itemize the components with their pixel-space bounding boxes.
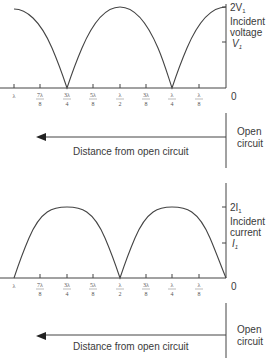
- svg-text:5λ: 5λ: [90, 92, 96, 98]
- svg-text:8: 8: [198, 101, 201, 107]
- svg-text:8: 8: [145, 101, 148, 107]
- distance-label-bottom: Distance from open circuit: [73, 341, 189, 352]
- voltage-title-line1: Incident: [230, 16, 265, 27]
- svg-text:8: 8: [39, 101, 42, 107]
- svg-text:8: 8: [145, 291, 148, 297]
- voltage-curve: [14, 7, 226, 88]
- svg-text:λ: λ: [119, 92, 122, 98]
- distance-label-top: Distance from open circuit: [73, 146, 189, 157]
- voltage-max-label: 2V1: [230, 2, 246, 14]
- svg-text:2: 2: [119, 291, 122, 297]
- voltage-zero-label: 0: [231, 91, 237, 102]
- svg-text:7λ: 7λ: [37, 92, 43, 98]
- svg-text:λ: λ: [171, 92, 174, 98]
- svg-text:3λ: 3λ: [64, 282, 70, 288]
- current-distance-arrow: Distance from open circuit Open circuit: [36, 303, 263, 358]
- svg-text:λ: λ: [171, 282, 174, 288]
- standing-wave-diagram: λ 7λ 8 3λ 4 5λ 8 λ 2 3λ 8 λ 4 λ 8 2V1 In…: [0, 0, 267, 358]
- current-mid-label: I1: [232, 238, 238, 250]
- voltage-mid-label: V1: [232, 38, 242, 50]
- svg-text:4: 4: [66, 291, 69, 297]
- current-zero-label: 0: [231, 281, 237, 292]
- current-max-label: 2I1: [230, 202, 242, 214]
- current-title-line2: current: [230, 227, 261, 238]
- svg-text:8: 8: [92, 291, 95, 297]
- svg-text:2: 2: [119, 101, 122, 107]
- current-x-tick-labels: λ 7λ 8 3λ 4 5λ 8 λ 2 3λ 8 λ 4 λ 8: [13, 282, 203, 297]
- svg-text:3λ: 3λ: [64, 92, 70, 98]
- current-curve: [14, 207, 226, 278]
- svg-text:4: 4: [171, 291, 174, 297]
- svg-text:3λ: 3λ: [143, 282, 149, 288]
- svg-text:λ: λ: [198, 282, 201, 288]
- voltage-distance-arrow: Distance from open circuit Open circuit: [36, 113, 263, 168]
- open-circuit-label-top-2: circuit: [237, 138, 263, 149]
- svg-text:λ: λ: [13, 283, 16, 289]
- open-circuit-label-top-1: Open: [237, 126, 261, 137]
- current-chart: λ 7λ 8 3λ 4 5λ 8 λ 2 3λ 8 λ 4 λ 8 2I1 In…: [0, 183, 265, 297]
- svg-text:8: 8: [39, 291, 42, 297]
- current-title-line1: Incident: [230, 216, 265, 227]
- voltage-x-tick-labels: λ 7λ 8 3λ 4 5λ 8 λ 2 3λ 8 λ 4 λ 8: [13, 92, 203, 107]
- svg-text:λ: λ: [119, 282, 122, 288]
- open-circuit-label-bottom-2: circuit: [237, 336, 263, 347]
- svg-text:8: 8: [198, 291, 201, 297]
- svg-text:8: 8: [92, 101, 95, 107]
- open-circuit-label-bottom-1: Open: [237, 324, 261, 335]
- svg-text:7λ: 7λ: [37, 282, 43, 288]
- voltage-title-line2: voltage: [230, 27, 263, 38]
- voltage-chart: λ 7λ 8 3λ 4 5λ 8 λ 2 3λ 8 λ 4 λ 8 2V1 In…: [0, 2, 265, 107]
- arrow-left-icon: [36, 332, 46, 340]
- svg-text:4: 4: [171, 101, 174, 107]
- svg-text:λ: λ: [13, 93, 16, 99]
- svg-text:5λ: 5λ: [90, 282, 96, 288]
- svg-text:λ: λ: [198, 92, 201, 98]
- arrow-left-icon: [36, 133, 46, 141]
- svg-text:4: 4: [66, 101, 69, 107]
- svg-text:3λ: 3λ: [143, 92, 149, 98]
